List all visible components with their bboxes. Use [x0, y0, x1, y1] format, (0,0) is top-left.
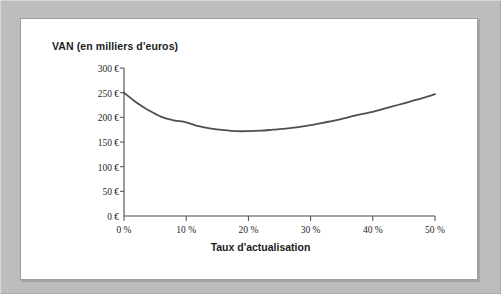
ytick-label-200: 200 € [98, 113, 120, 123]
ytick-label-150: 150 € [98, 138, 120, 148]
chart-screenshot: VAN (en milliers d'euros) 300 € 250 € 20… [0, 0, 501, 294]
axis-lines [124, 68, 435, 216]
xtick-label-10: 10 % [176, 225, 196, 235]
ytick-label-50: 50 € [102, 187, 119, 197]
xtick-label-50: 50 % [425, 225, 445, 235]
ytick-label-0: 0 € [107, 212, 119, 222]
x-axis-title: Taux d'actualisation [211, 241, 311, 253]
y-axis-ticks [120, 68, 124, 191]
ytick-label-100: 100 € [98, 163, 120, 173]
x-axis-ticks [124, 216, 435, 221]
plot-area: 300 € 250 € 200 € 150 € 100 € 50 € 0 € [20, 18, 478, 258]
xtick-label-30: 30 % [301, 225, 321, 235]
x-axis-title-wrap: Taux d'actualisation [0, 241, 501, 253]
xtick-label-40: 40 % [363, 225, 383, 235]
ytick-label-300: 300 € [98, 64, 120, 74]
xtick-label-20: 20 % [239, 225, 259, 235]
xtick-label-0: 0 % [116, 225, 131, 235]
ytick-label-250: 250 € [98, 89, 120, 99]
van-curve [124, 93, 435, 132]
